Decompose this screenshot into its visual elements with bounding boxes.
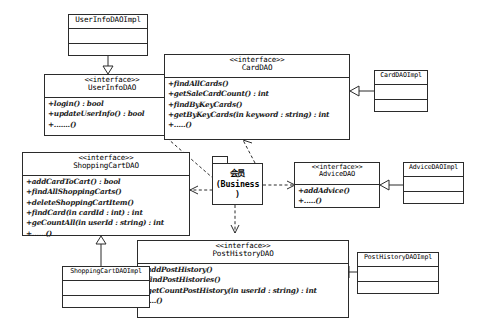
class-node-advicedaoimpl[interactable]: AdviceDAOImpl bbox=[403, 162, 464, 204]
class-name: AdviceDAOImpl bbox=[406, 164, 461, 171]
operation-item: +.....() bbox=[168, 120, 349, 130]
realization-arrowhead bbox=[350, 86, 359, 96]
operation-item: +addPostHistory() bbox=[141, 265, 348, 275]
operations-compartment bbox=[375, 99, 427, 114]
operation-item: +updateUserInfo() : bool bbox=[48, 109, 179, 119]
class-node-posthistorydaoimpl[interactable]: PostHistoryDAOImpl bbox=[357, 252, 439, 294]
operation-item: +findCard(in cardId : int) : int bbox=[26, 208, 189, 218]
interface-header: <<interface>> AdviceDAO bbox=[295, 163, 379, 184]
interface-name: CardDAO bbox=[167, 64, 347, 72]
operations-compartment bbox=[63, 295, 149, 310]
operations-compartment: +login() : bool +updateUserInfo() : bool… bbox=[45, 97, 179, 131]
interface-node-advicedao[interactable]: <<interface>> AdviceDAO +addAdvice() +..… bbox=[294, 162, 380, 208]
operation-item: +findAllCards() bbox=[168, 79, 349, 89]
operation-item: +deleteShoppingCartItem() bbox=[26, 198, 189, 208]
class-node-shoppingcartdaoimpl[interactable]: ShoppingCartDAOImpl bbox=[62, 266, 150, 308]
interface-header: <<interface>> PostHistoryDAO bbox=[138, 241, 348, 263]
package-label-close-paren: ) bbox=[235, 189, 240, 200]
operation-item: +.....() bbox=[298, 196, 379, 206]
package-label-cn: 会员 bbox=[230, 168, 246, 179]
interface-node-carddao[interactable]: <<interface>> CardDAO +findAllCards() +g… bbox=[164, 54, 350, 140]
operations-compartment: +findAllCards() +getSaleCardCount() : in… bbox=[165, 77, 349, 132]
attributes-compartment bbox=[63, 280, 149, 295]
class-header: PostHistoryDAOImpl bbox=[358, 253, 438, 266]
package-label-en: (Business bbox=[216, 179, 260, 190]
realization-arrowhead bbox=[380, 180, 389, 190]
interface-name: AdviceDAO bbox=[297, 171, 377, 179]
operation-item: +getCountPostHistory(in userId : string)… bbox=[141, 286, 348, 296]
class-node-userinfodaoimpl[interactable]: UserInfoDAOImpl bbox=[68, 14, 148, 56]
operations-compartment: +addCardToCart() : bool +findAllShopping… bbox=[23, 175, 189, 240]
class-header: UserInfoDAOImpl bbox=[69, 15, 147, 28]
attributes-compartment bbox=[375, 84, 427, 99]
class-header: ShoppingCartDAOImpl bbox=[63, 267, 149, 280]
class-name: CardDAOImpl bbox=[377, 72, 425, 79]
class-header: CardDAOImpl bbox=[375, 71, 427, 84]
interface-name: UserInfoDAO bbox=[47, 84, 177, 92]
operation-item: +findByKeyCards() bbox=[168, 100, 349, 110]
operation-item: +findPostHistories() bbox=[141, 275, 348, 285]
operations-compartment: +addPostHistory() +findPostHistories() +… bbox=[138, 263, 348, 307]
edge-business-carddao bbox=[243, 140, 255, 163]
attributes-compartment bbox=[69, 28, 147, 43]
operations-compartment: +addAdvice() +.....() bbox=[295, 184, 379, 208]
operation-item: +......() bbox=[26, 229, 189, 239]
class-header: AdviceDAOImpl bbox=[404, 163, 463, 176]
package-node-business[interactable]: 会员 (Business ) bbox=[212, 163, 263, 205]
interface-node-shoppingcartdao[interactable]: <<interface>> ShoppingCartDAO +addCardTo… bbox=[22, 152, 190, 236]
operations-compartment bbox=[69, 43, 147, 58]
operation-item: +login() : bool bbox=[48, 99, 179, 109]
operation-item: +....() bbox=[141, 296, 348, 306]
interface-header: <<interface>> ShoppingCartDAO bbox=[23, 153, 189, 175]
operation-item: +getSaleCardCount() : int bbox=[168, 89, 349, 99]
attributes-compartment bbox=[358, 266, 438, 281]
operation-item: +findAllShoppingCarts() bbox=[26, 187, 189, 197]
interface-name: PostHistoryDAO bbox=[140, 250, 346, 258]
interface-node-posthistorydao[interactable]: <<interface>> PostHistoryDAO +addPostHis… bbox=[137, 240, 349, 318]
realization-arrowhead bbox=[103, 66, 113, 74]
operation-item: +addAdvice() bbox=[298, 186, 379, 196]
operation-item: +getByKeyCards(in keyword : string) : in… bbox=[168, 110, 349, 120]
operation-item: +addCardToCart() : bool bbox=[26, 177, 189, 187]
attributes-compartment bbox=[404, 176, 463, 191]
operation-item: +geCountAll(in userId : string) : int bbox=[26, 218, 189, 228]
class-name: UserInfoDAOImpl bbox=[71, 16, 145, 24]
uml-class-diagram-canvas: UserInfoDAOImpl <<interface>> UserInfoDA… bbox=[0, 0, 479, 334]
interface-header: <<interface>> CardDAO bbox=[165, 55, 349, 77]
operations-compartment bbox=[358, 281, 438, 296]
class-name: ShoppingCartDAOImpl bbox=[65, 268, 147, 275]
class-node-carddaoimpl[interactable]: CardDAOImpl bbox=[374, 70, 428, 112]
interface-header: <<interface>> UserInfoDAO bbox=[45, 75, 179, 97]
operations-compartment bbox=[404, 191, 463, 206]
class-name: PostHistoryDAOImpl bbox=[360, 254, 436, 261]
interface-name: ShoppingCartDAO bbox=[25, 162, 187, 170]
interface-node-userinfodao[interactable]: <<interface>> UserInfoDAO +login() : boo… bbox=[44, 74, 180, 136]
operation-item: +.......() bbox=[48, 120, 179, 130]
